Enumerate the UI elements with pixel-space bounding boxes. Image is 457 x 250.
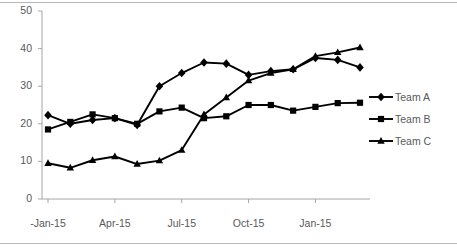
data-point-marker <box>200 58 208 67</box>
diamond-marker-icon <box>368 88 394 106</box>
data-point-marker <box>268 102 274 108</box>
legend-item-label: Team C <box>394 135 431 147</box>
data-point-marker <box>335 100 341 106</box>
chart-legend: Team ATeam BTeam C <box>368 86 454 152</box>
data-point-marker <box>44 111 52 120</box>
data-point-marker <box>179 105 185 111</box>
y-axis-tick-label: 20 <box>6 117 32 129</box>
data-point-marker <box>223 113 229 119</box>
data-point-marker <box>178 69 186 78</box>
data-point-marker <box>290 108 296 114</box>
data-point-marker <box>356 44 363 51</box>
x-axis-tick-label: Jul-15 <box>147 217 217 229</box>
chart-figure: 01020304050 -Jan-15Apr-15Jul-15Oct-15Jan… <box>0 0 457 250</box>
data-point-marker <box>89 111 95 117</box>
y-axis-tick-label: 30 <box>6 79 32 91</box>
x-axis-tick-label: Oct-15 <box>214 217 284 229</box>
x-axis-tick-label: Apr-15 <box>80 217 150 229</box>
y-axis-tick-label: 40 <box>6 42 32 54</box>
y-axis-tick-label: 10 <box>6 154 32 166</box>
y-axis-tick-label: 50 <box>6 4 32 16</box>
data-point-marker <box>45 126 51 132</box>
triangle-marker-icon <box>368 132 394 150</box>
y-axis-tick-label: 0 <box>6 192 32 204</box>
data-point-marker <box>111 153 118 160</box>
data-point-marker <box>377 93 385 102</box>
legend-item-label: Team A <box>394 91 430 103</box>
data-point-marker <box>356 63 364 72</box>
legend-item-team-c[interactable]: Team C <box>368 130 454 152</box>
square-marker-icon <box>368 110 394 128</box>
legend-item-team-a[interactable]: Team A <box>368 86 454 108</box>
data-point-marker <box>223 59 231 68</box>
x-axis-tick-label: -Jan-15 <box>13 217 83 229</box>
data-point-marker <box>378 116 384 122</box>
data-point-marker <box>44 159 51 166</box>
chart-series-group <box>44 44 364 171</box>
data-point-marker <box>112 115 118 121</box>
data-point-marker <box>357 100 363 106</box>
data-point-marker <box>245 102 251 108</box>
legend-item-label: Team B <box>394 113 431 125</box>
data-point-marker <box>134 121 140 127</box>
x-axis-tick-label: Jan-15 <box>280 217 350 229</box>
data-point-marker <box>156 108 162 114</box>
data-point-marker <box>312 104 318 110</box>
data-point-marker <box>334 56 342 65</box>
legend-item-team-b[interactable]: Team B <box>368 108 454 130</box>
data-point-marker <box>67 119 73 125</box>
